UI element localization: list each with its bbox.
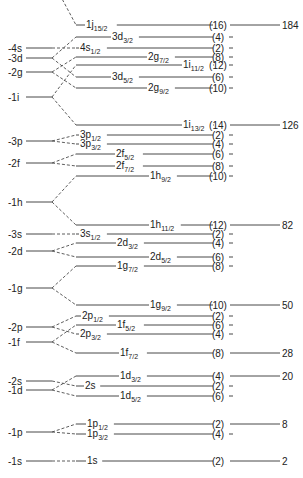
unsplit-level-label: -2p [8,322,23,333]
splitting-connector [52,390,76,396]
split-level-label: 1f7/2 [120,347,138,360]
unsplit-levels: -4s-3d-2g-1i-3p-2f-1h-3s-2d-1g-2p-1f-2s-… [8,43,52,467]
unsplit-level-label: -2g [8,67,22,78]
splitting-connector [52,37,76,58]
splitting-connector [52,376,76,390]
magic-number: 8 [282,419,288,430]
splitting-connector [52,327,76,334]
splitting-connector [52,424,76,432]
unsplit-level-label: -1i [8,92,19,103]
split-level-label: 1i11/2 [183,59,204,72]
split-level-label: 1s [87,455,98,466]
split-level-label: 1h11/2 [150,219,174,232]
occupancy-label: (10) [209,171,227,182]
splitting-connector [52,432,76,434]
split-level-label: 4s1/2 [80,42,100,55]
unsplit-level-label: -1p [8,427,23,438]
occupancy-label: (16) [209,20,227,31]
occupancy-label: (6) [212,149,224,160]
split-levels: 1j15/2(16)3d3/2(4)4s1/2(2)2g7/2(8)1i11/2… [76,19,233,467]
magic-number: 20 [282,371,294,382]
splitting-connectors [52,0,76,461]
unsplit-level-label: -1s [8,456,22,467]
shell-model-diagram: -4s-3d-2g-1i-3p-2f-1h-3s-2d-1g-2p-1f-2s-… [0,0,303,478]
split-level-label: 3d3/2 [112,31,133,44]
unsplit-level-label: -1g [8,283,22,294]
magic-number: 82 [282,220,294,231]
occupancy-label: (8) [212,348,224,359]
split-level-label: 2p3/2 [80,328,101,341]
occupancy-label: (6) [212,72,224,83]
splitting-connector [52,243,76,251]
magic-number: 2 [282,456,288,467]
split-level-label: 2s [85,380,96,391]
splitting-connector [52,202,76,225]
occupancy-label: (8) [212,261,224,272]
splitting-connector [52,135,76,141]
occupancy-label: (4) [212,238,224,249]
split-level-label: 3d5/2 [112,71,133,84]
occupancy-label: (12) [209,60,227,71]
split-level-label: 2d5/2 [150,251,171,264]
splitting-connector [52,141,76,144]
split-level-label: 2g7/2 [148,51,169,64]
magic-number: 28 [282,348,294,359]
magic-number: 50 [282,300,294,311]
split-level-label: 2p1/2 [82,310,103,323]
split-level-label: 1j15/2 [86,19,108,32]
splitting-connector [52,251,76,257]
unsplit-level-label: -3p [8,136,23,147]
splitting-connector [52,381,76,386]
unsplit-level-label: -2f [8,158,20,169]
splitting-connector [52,266,76,288]
magic-number: 184 [282,20,299,31]
split-level-label: 1g9/2 [150,299,171,312]
occupancy-label: (4) [212,32,224,43]
splitting-connector [52,163,76,166]
splitting-connector [52,65,76,97]
splitting-connector [52,316,76,327]
unsplit-level-label: -3s [8,229,22,240]
split-level-label: 1f5/2 [117,319,135,332]
splitting-connector [60,0,76,25]
splitting-connector [52,325,76,342]
occupancy-label: (10) [209,300,227,311]
occupancy-label: (4) [212,429,224,440]
splitting-connector [52,154,76,163]
splitting-connector [52,97,76,125]
unsplit-level-label: -1h [8,197,22,208]
unsplit-level-label: -3d [8,53,22,64]
split-level-label: 1d3/2 [120,370,141,383]
occupancy-label: (4) [212,329,224,340]
unsplit-level-label: -1d [8,385,22,396]
occupancy-label: (10) [209,83,227,94]
occupancy-label: (2) [212,456,224,467]
split-level-label: 2f5/2 [116,148,134,161]
split-level-label: 1g7/2 [117,260,138,273]
splitting-connector [52,342,76,353]
split-level-label: 2f7/2 [116,160,134,173]
magic-number: 126 [282,120,299,131]
occupancy-label: (6) [212,391,224,402]
splitting-connector [52,176,76,202]
split-level-label: 1h9/2 [150,170,171,183]
split-level-label: 1i13/2 [183,119,205,132]
split-level-label: 2g9/2 [148,82,169,95]
splitting-connector [52,57,76,72]
unsplit-level-label: -2d [8,246,22,257]
splitting-connector [52,288,76,305]
split-level-label: 3s1/2 [80,228,100,241]
splitting-connector [52,58,76,77]
magic-numbers: 1841268250282082 [230,20,299,467]
unsplit-level-label: -1f [8,337,20,348]
split-level-label: 2d3/2 [117,237,138,250]
split-level-label: 1d5/2 [120,390,141,403]
